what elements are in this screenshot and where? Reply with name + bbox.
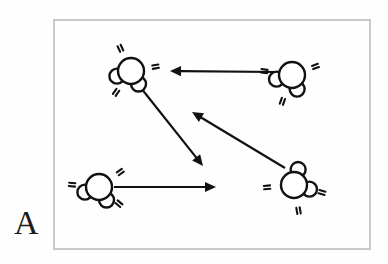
molecule-top-left-motion-mark-2 [153, 68, 159, 69]
molecule-bottom-right-motion-mark-1 [296, 208, 297, 214]
panel-frame [54, 20, 370, 249]
molecule-bottom-right-motion-mark-1 [300, 207, 301, 213]
molecule-bottom-left-motion-mark-2 [69, 183, 75, 184]
molecule-bottom-left-motion-mark-2 [69, 186, 75, 187]
molecule-bottom-right-motion-mark-3 [264, 185, 270, 186]
molecule-top-right-motion-mark-1 [261, 72, 267, 73]
molecule-top-right-central-atom [279, 62, 305, 88]
molecule-bottom-left-central-atom [86, 174, 112, 200]
molecule-top-right-motion-mark-1 [261, 69, 267, 70]
molecule-bottom-right-motion-mark-3 [264, 189, 270, 190]
figure-panel: A [0, 0, 388, 264]
panel-frame-rect [54, 20, 370, 249]
molecule-top-left-central-atom [118, 58, 144, 84]
molecule-top-left-motion-mark-2 [152, 64, 158, 65]
molecule-motion-diagram [0, 0, 388, 264]
molecule-bottom-right-central-atom [281, 172, 307, 198]
panel-letter-label: A [14, 206, 39, 240]
